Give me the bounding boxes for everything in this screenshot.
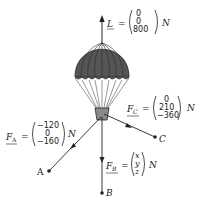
svg-text:L: L [106,19,113,29]
svg-text:C: C [133,108,138,115]
label-point-C: C [159,134,166,144]
svg-text:=: = [21,132,29,142]
svg-text:z: z [134,167,140,176]
svg-text:=: = [118,19,126,29]
arrowhead-icon [100,157,105,163]
suspension-lines [75,78,129,108]
anchor-point-C [153,135,157,139]
arrowhead-up-icon [99,15,104,22]
anchor-point-A [47,169,51,173]
force-A-label: F A = −120 0 −160 N [5,121,77,146]
cable-C [104,114,157,139]
svg-text:=: = [121,161,129,171]
lift-force-arrow [99,15,104,44]
label-point-B: B [105,188,113,198]
svg-text:N: N [161,18,171,28]
svg-text:B: B [111,165,117,172]
cable-B [100,117,105,195]
svg-text:A: A [11,136,17,143]
svg-text:−360: −360 [157,111,179,120]
anchor-point-B [100,191,104,195]
svg-text:−160: −160 [37,137,59,146]
svg-text:=: = [142,104,150,114]
svg-text:N: N [148,160,158,170]
svg-text:800: 800 [133,25,148,34]
svg-text:N: N [186,103,196,113]
force-B-label: F B = x y z N [105,151,158,176]
lift-force-label: L = 0 0 800 N [106,9,171,34]
svg-text:N: N [67,129,77,139]
parachute-canopy [75,43,129,79]
force-C-label: F C = 0 210 −360 N [126,95,196,120]
label-point-A: A [36,167,44,177]
parachute-force-diagram: A B C L = 0 0 800 N F A = −120 0 −160 N … [0,0,201,201]
